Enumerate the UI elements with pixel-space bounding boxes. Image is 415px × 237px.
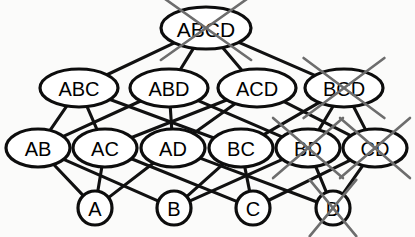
lattice-edge: [245, 167, 250, 191]
lattice-edge: [187, 164, 224, 197]
lattice-node-c[interactable]: C: [236, 191, 270, 225]
lattice-node-ad[interactable]: AD: [141, 129, 205, 167]
lattice-edge: [98, 167, 102, 191]
lattice-edge: [180, 48, 193, 70]
node-label: AC: [91, 138, 119, 160]
lattice-edge: [343, 166, 363, 195]
lattice-edge: [54, 165, 84, 196]
lattice-node-abd[interactable]: ABD: [130, 69, 208, 107]
lattice-node-bc[interactable]: BC: [209, 129, 273, 167]
subset-lattice-graph: ABCDABCABDACDBCDABACADBCBDCDABCD: [0, 0, 415, 237]
lattice-node-ab[interactable]: AB: [6, 129, 70, 167]
lattice-edge: [170, 107, 171, 129]
node-label: A: [88, 198, 102, 220]
lattice-node-b[interactable]: B: [157, 191, 191, 225]
lattice-edge: [354, 106, 366, 129]
node-label: ABC: [58, 78, 99, 100]
node-label: AB: [25, 138, 52, 160]
lattice-node-a[interactable]: A: [78, 191, 112, 225]
lattice-edge: [108, 163, 153, 198]
node-label: ABD: [148, 78, 189, 100]
node-label: B: [167, 198, 180, 220]
lattice-edge: [50, 106, 67, 130]
lattice-node-acd[interactable]: ACD: [218, 69, 296, 107]
lattice-node-abc[interactable]: ABC: [40, 69, 118, 107]
node-label: BC: [227, 138, 255, 160]
node-label: C: [246, 198, 260, 220]
node-label: ACD: [236, 78, 278, 100]
lattice-node-ac[interactable]: AC: [73, 129, 137, 167]
node-label: AD: [159, 138, 187, 160]
lattice-diagram-canvas: ABCDABCABDACDBCDABACADBCBDCDABCD: [0, 0, 415, 237]
edge-layer: [50, 42, 366, 202]
